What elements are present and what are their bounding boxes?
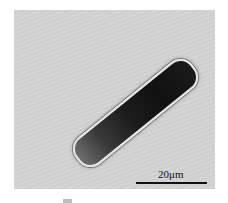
micrograph-panel bbox=[14, 10, 215, 189]
scale-bar-label: 20μm bbox=[158, 168, 183, 180]
caption-fragment bbox=[63, 199, 72, 203]
rod-shaped-cell bbox=[67, 53, 204, 173]
scale-bar bbox=[136, 182, 207, 184]
